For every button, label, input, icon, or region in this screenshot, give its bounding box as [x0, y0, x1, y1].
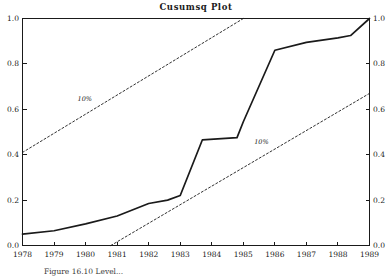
x-axis-tick-label: 1987: [292, 250, 320, 259]
plot-area: [0, 0, 392, 276]
figure-caption: Figure 16.10 Level...: [44, 267, 123, 276]
series-10-upper-bound: [23, 19, 244, 153]
series-10-lower-bound: [111, 93, 370, 245]
y-axis-right-tick-label: 0.4: [373, 150, 392, 159]
x-axis-tick-label: 1989: [356, 250, 384, 259]
upper-bound-label: 10%: [78, 95, 92, 103]
y-axis-right-tick-label: 0.8: [373, 59, 392, 68]
x-axis-tick-label: 1980: [72, 250, 100, 259]
y-axis-right-tick-label: 0.6: [373, 105, 392, 114]
x-axis-tick-label: 1978: [9, 250, 37, 259]
y-axis-right-tick-label: 1.0: [373, 14, 392, 23]
x-axis-tick-label: 1984: [198, 250, 226, 259]
y-axis-right-tick-label: 0.2: [373, 196, 392, 205]
x-axis-tick-label: 1983: [166, 250, 194, 259]
series-cusumsq: [23, 19, 370, 235]
y-axis-left-tick-label: 0.4: [0, 150, 19, 159]
cusumsq-figure: Cusumsq Plot 0.00.20.40.60.81.0 0.00.20.…: [0, 0, 392, 276]
y-axis-left-tick-label: 0.8: [0, 59, 19, 68]
axis-ticks: [23, 19, 370, 246]
x-axis-tick-label: 1979: [40, 250, 68, 259]
y-axis-left-tick-label: 0.2: [0, 196, 19, 205]
lower-bound-label: 10%: [254, 138, 268, 146]
x-axis-tick-label: 1985: [229, 250, 257, 259]
data-series-group: [23, 19, 370, 246]
x-axis-tick-label: 1982: [135, 250, 163, 259]
x-axis-tick-label: 1988: [324, 250, 352, 259]
x-axis-tick-label: 1986: [261, 250, 289, 259]
plot-frame: [23, 19, 370, 246]
x-axis-tick-label: 1981: [103, 250, 131, 259]
y-axis-left-tick-label: 0.6: [0, 105, 19, 114]
y-axis-left-tick-label: 1.0: [0, 14, 19, 23]
